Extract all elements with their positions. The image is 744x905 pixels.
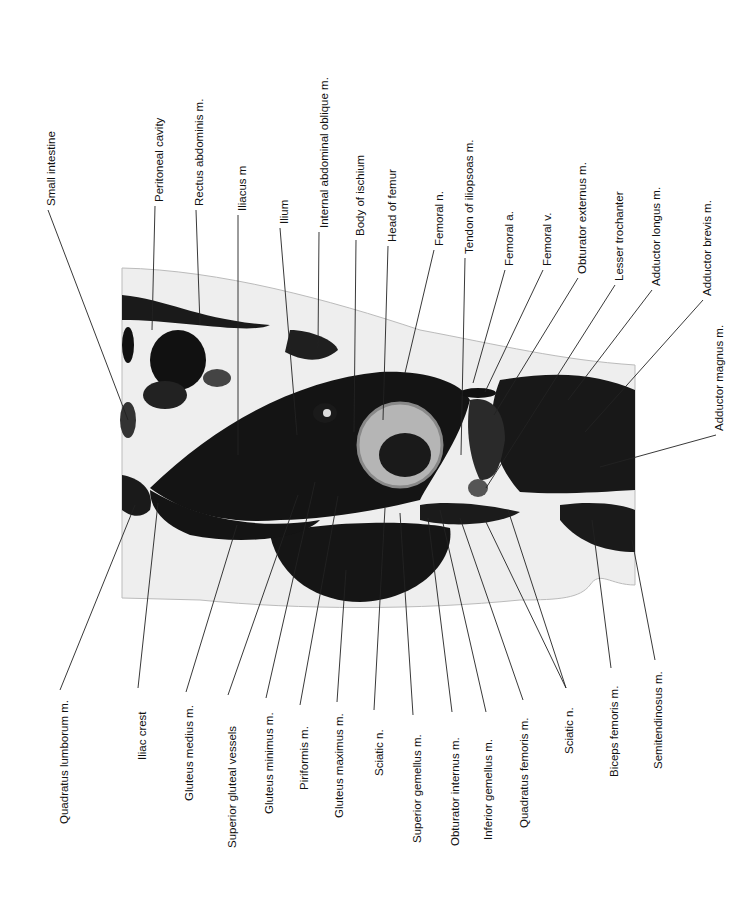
label-adductor-longus-m: Adductor longus m.: [651, 187, 663, 286]
cross-section-image: [0, 0, 744, 905]
label-gluteus-maximus-m: Gluteus maximus m.: [334, 713, 346, 818]
label-femoral-v: Femoral v.: [542, 213, 554, 266]
label-iliac-crest: Iliac crest: [137, 712, 149, 761]
label-gluteus-minimus-m: Gluteus minimus m.: [264, 712, 276, 814]
label-obturator-externus-m: Obturator externus m.: [577, 162, 589, 274]
label-lesser-trochanter: Lesser trochanter: [614, 192, 626, 282]
label-superior-gluteal-vessels: Superior gluteal vessels: [227, 726, 239, 848]
label-internal-abdominal-oblique-m: Internal abdominal oblique m.: [319, 77, 331, 228]
label-small-intestine: Small intestine: [46, 131, 58, 206]
label-peritoneal-cavity: Peritoneal cavity: [154, 118, 166, 202]
label-head-of-femur: Head of femur: [387, 169, 399, 242]
label-superior-gemellus-m: Superior gemellus m.: [412, 734, 424, 843]
label-quadratus-lumborum-m: Quadratus lumborum m.: [59, 700, 71, 824]
lesser-trochanter: [468, 479, 488, 497]
label-rectus-abdominis-m: Rectus abdominis m.: [194, 99, 206, 206]
label-adductor-magnus-m: Adductor magnus m.: [714, 325, 726, 431]
label-obturator-internus-m: Obturator internus m.: [450, 738, 462, 847]
leader-line: [632, 540, 655, 660]
label-biceps-femoris-m: Biceps femoris m.: [609, 686, 621, 777]
label-quadratus-femoris-m: Quadratus femoris m.: [519, 717, 531, 828]
label-piriformis-m: Piriformis m.: [299, 726, 311, 790]
label-sciatic-n: Sciatic n.: [564, 707, 576, 754]
label-femoral-n: Femoral n.: [434, 191, 446, 246]
label-body-of-ischium: Body of ischium: [355, 155, 367, 236]
femoral-vessels: [460, 388, 496, 398]
label-ilium: Ilium: [279, 200, 291, 224]
label-gluteus-medius-m: Gluteus medius m.: [184, 706, 196, 802]
leader-line: [48, 210, 128, 420]
label-femoral-a: Femoral a.: [504, 211, 516, 266]
label-inferior-gemellus-m: Inferior gemellus m.: [483, 739, 495, 840]
label-adductor-brevis-m: Adductor brevis m.: [702, 200, 714, 296]
small-intestine: [150, 330, 206, 390]
label-semitendinosus-m: Semitendinosus m.: [653, 672, 665, 770]
adductor-group: [492, 375, 635, 493]
anatomy-figure: Small intestinePeritoneal cavityRectus a…: [0, 0, 744, 905]
label-sciatic-n: Sciatic n.: [374, 729, 386, 776]
label-iliacus-m: Iliacus m: [237, 166, 249, 211]
label-tendon-of-iliopsoas-m: Tendon of iliopsoas m.: [464, 140, 476, 254]
